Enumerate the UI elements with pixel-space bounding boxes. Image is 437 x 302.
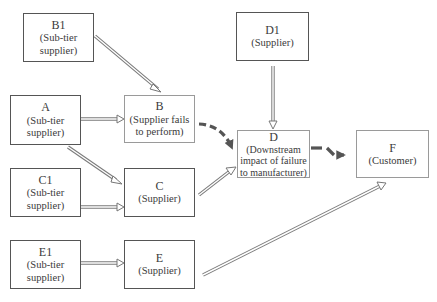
node-b-id: B xyxy=(155,99,163,113)
node-a-id: A xyxy=(41,100,50,114)
node-d1: D1 (Supplier) xyxy=(236,12,309,61)
node-c: C (Supplier) xyxy=(124,168,195,217)
arrow-c1-to-c xyxy=(81,203,124,211)
node-e1-role: (Sub-tier supplier) xyxy=(11,259,80,284)
node-d: D (Downstream impact of failure to manuf… xyxy=(237,130,310,178)
arrow-d1-to-d xyxy=(269,66,277,129)
node-e: E (Supplier) xyxy=(124,240,195,289)
node-b: B (Supplier fails to perform) xyxy=(124,95,195,143)
node-d1-id: D1 xyxy=(265,23,280,37)
arrow-e1-to-e xyxy=(81,259,124,267)
node-b1-role: (Sub-tier supplier) xyxy=(24,32,93,57)
node-c1-role: (Sub-tier supplier) xyxy=(11,187,80,212)
node-f-role: (Customer) xyxy=(369,155,417,168)
node-c1-id: C1 xyxy=(38,173,52,187)
node-f-id: F xyxy=(389,141,396,155)
dashed-arrow-d-to-f xyxy=(311,148,344,155)
node-b-role: (Supplier fails to perform) xyxy=(129,114,190,139)
node-d-role: (Downstream impact of failure to manufac… xyxy=(239,144,308,179)
node-b1-id: B1 xyxy=(51,18,65,32)
node-a: A (Sub-tier supplier) xyxy=(10,95,81,145)
node-e-role: (Supplier) xyxy=(138,265,181,278)
node-b1: B1 (Sub-tier supplier) xyxy=(23,13,94,62)
arrow-a-to-b xyxy=(81,115,124,123)
node-c-id: C xyxy=(155,179,163,193)
node-e-id: E xyxy=(156,251,163,265)
dashed-arrow-b-to-d xyxy=(199,124,232,148)
node-c1: C1 (Sub-tier supplier) xyxy=(10,168,81,217)
node-a-role: (Sub-tier supplier) xyxy=(11,115,80,140)
node-e1: E1 (Sub-tier supplier) xyxy=(10,240,81,289)
node-d-id: D xyxy=(269,130,278,144)
arrow-e-to-f xyxy=(203,182,386,275)
node-c-role: (Supplier) xyxy=(138,193,181,206)
node-e1-id: E1 xyxy=(39,245,52,259)
node-f: F (Customer) xyxy=(356,130,429,178)
node-d1-role: (Supplier) xyxy=(251,37,294,50)
arrow-b1-to-b xyxy=(95,36,161,92)
arrow-c-to-d xyxy=(199,167,236,195)
